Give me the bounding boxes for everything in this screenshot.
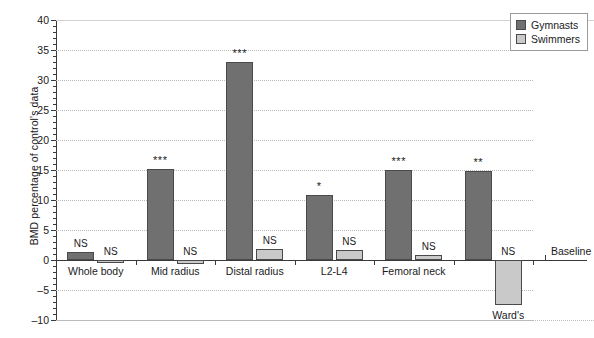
y-axis-tick bbox=[51, 320, 56, 321]
legend-swatch-icon-gymnasts bbox=[516, 20, 526, 30]
y-axis-minor-tick bbox=[53, 62, 56, 63]
bar-swimmers bbox=[97, 260, 124, 263]
legend-label-swimmers: Swimmers bbox=[531, 34, 580, 45]
y-axis-minor-tick bbox=[53, 218, 56, 219]
y-axis-minor-tick bbox=[53, 194, 56, 195]
x-axis-category-label: Femoral neck bbox=[364, 266, 464, 277]
y-axis-minor-tick bbox=[53, 236, 56, 237]
significance-annotation: *** bbox=[376, 156, 421, 166]
y-axis-minor-tick bbox=[53, 302, 56, 303]
y-gridline bbox=[56, 80, 533, 81]
y-axis-tick-label: 25 bbox=[37, 105, 49, 115]
y-axis-minor-tick bbox=[53, 314, 56, 315]
y-gridline bbox=[56, 20, 533, 21]
y-axis-minor-tick bbox=[53, 104, 56, 105]
plot-area: 4035302520151050–5–10NSNSWhole body***NS… bbox=[56, 20, 533, 320]
y-axis-minor-tick bbox=[53, 278, 56, 279]
baseline-callout-line bbox=[533, 260, 587, 261]
legend-item-gymnasts: Gymnasts bbox=[516, 18, 580, 32]
y-axis-tick-label: 5 bbox=[43, 225, 49, 235]
x-axis-tick bbox=[136, 260, 137, 265]
legend-swatch-icon-swimmers bbox=[516, 34, 526, 44]
bar-swimmers bbox=[256, 249, 283, 260]
y-axis-tick bbox=[51, 230, 56, 231]
x-axis-tick bbox=[454, 260, 455, 265]
bar-gymnasts bbox=[226, 62, 253, 260]
y-axis-tick bbox=[51, 170, 56, 171]
y-axis-minor-tick bbox=[53, 74, 56, 75]
y-axis-minor-tick bbox=[53, 308, 56, 309]
y-axis-minor-tick bbox=[53, 254, 56, 255]
bar-swimmers bbox=[336, 250, 363, 260]
significance-annotation: NS bbox=[247, 236, 292, 246]
y-axis-tick-label: 10 bbox=[37, 195, 49, 205]
y-axis-tick-label: 15 bbox=[37, 165, 49, 175]
y-gridline bbox=[56, 110, 533, 111]
baseline-callout-tick bbox=[545, 255, 546, 261]
significance-annotation: *** bbox=[217, 48, 262, 58]
y-axis-tick bbox=[51, 110, 56, 111]
y-axis-minor-tick bbox=[53, 98, 56, 99]
legend-label-gymnasts: Gymnasts bbox=[531, 20, 578, 31]
y-axis-minor-tick bbox=[53, 188, 56, 189]
bar-swimmers bbox=[177, 260, 204, 264]
y-gridline bbox=[56, 230, 533, 231]
y-axis-tick-label: 0 bbox=[43, 255, 49, 265]
y-gridline bbox=[56, 50, 533, 51]
y-gridline bbox=[56, 290, 533, 291]
y-axis-tick-label: 35 bbox=[37, 45, 49, 55]
y-axis-minor-tick bbox=[53, 212, 56, 213]
y-axis-minor-tick bbox=[53, 122, 56, 123]
y-axis-minor-tick bbox=[53, 44, 56, 45]
y-axis-minor-tick bbox=[53, 134, 56, 135]
significance-annotation: NS bbox=[486, 247, 531, 257]
y-axis-tick bbox=[51, 50, 56, 51]
significance-annotation: NS bbox=[327, 237, 372, 247]
x-axis-tick bbox=[374, 260, 375, 265]
y-axis-tick bbox=[51, 140, 56, 141]
y-axis-minor-tick bbox=[53, 38, 56, 39]
x-axis-tick bbox=[295, 260, 296, 265]
y-axis-tick-label: 30 bbox=[37, 75, 49, 85]
y-axis-minor-tick bbox=[53, 128, 56, 129]
significance-annotation: NS bbox=[406, 242, 451, 252]
bar-swimmers bbox=[495, 260, 522, 305]
y-gridline bbox=[56, 140, 533, 141]
y-axis-minor-tick bbox=[53, 182, 56, 183]
y-gridline bbox=[56, 170, 533, 171]
y-axis-minor-tick bbox=[53, 176, 56, 177]
y-axis-minor-tick bbox=[53, 92, 56, 93]
y-axis-tick bbox=[51, 80, 56, 81]
y-axis-tick bbox=[51, 20, 56, 21]
y-axis-minor-tick bbox=[53, 152, 56, 153]
y-axis-tick-label: –5 bbox=[37, 285, 49, 295]
y-axis-tick bbox=[51, 290, 56, 291]
y-axis-tick bbox=[51, 200, 56, 201]
y-axis-minor-tick bbox=[53, 56, 56, 57]
x-axis-category-label: Ward's bbox=[459, 310, 559, 321]
x-axis-tick bbox=[215, 260, 216, 265]
y-axis-tick-label: 20 bbox=[37, 135, 49, 145]
y-axis-minor-tick bbox=[53, 224, 56, 225]
y-axis-minor-tick bbox=[53, 206, 56, 207]
y-axis-minor-tick bbox=[53, 284, 56, 285]
baseline-label: Baseline bbox=[551, 246, 591, 257]
y-axis-minor-tick bbox=[53, 158, 56, 159]
chart-legend: Gymnasts Swimmers bbox=[510, 13, 588, 51]
significance-annotation: *** bbox=[138, 155, 183, 165]
bar-swimmers bbox=[415, 255, 442, 260]
y-axis-minor-tick bbox=[53, 26, 56, 27]
y-axis-minor-tick bbox=[53, 116, 56, 117]
y-axis-minor-tick bbox=[53, 32, 56, 33]
y-axis-minor-tick bbox=[53, 68, 56, 69]
y-gridline bbox=[56, 200, 533, 201]
significance-annotation: NS bbox=[88, 247, 133, 257]
y-axis-tick-label: –10 bbox=[31, 315, 49, 325]
bar-chart-figure: BMD percentage of control's data 4035302… bbox=[0, 0, 594, 338]
y-axis-minor-tick bbox=[53, 86, 56, 87]
y-axis-minor-tick bbox=[53, 146, 56, 147]
significance-annotation: * bbox=[297, 181, 342, 191]
y-axis-minor-tick bbox=[53, 164, 56, 165]
y-axis-minor-tick bbox=[53, 248, 56, 249]
y-axis-minor-tick bbox=[53, 296, 56, 297]
